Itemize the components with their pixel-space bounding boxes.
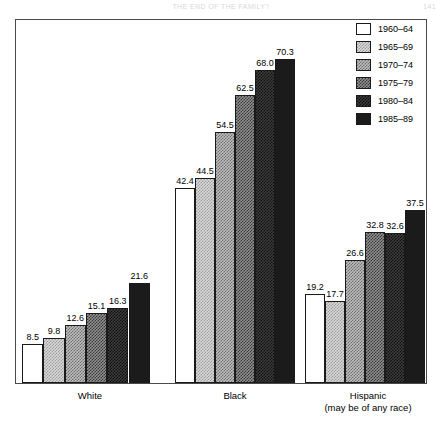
bar — [175, 188, 195, 383]
bar — [129, 283, 150, 383]
legend-item-label: 1970–74 — [378, 60, 413, 70]
page-number: 141 — [423, 0, 436, 14]
category-label-text: Black — [223, 390, 246, 401]
bar-value-label: 70.3 — [270, 47, 300, 57]
legend-item-label: 1965–69 — [378, 42, 413, 52]
chart-legend: 1960–641965–691970–741975–791980–841985–… — [356, 20, 434, 128]
bar — [405, 210, 425, 383]
category-label-subtext: (may be of any race) — [288, 402, 442, 414]
running-head: THE END OF THE FAMILY? 141 — [0, 0, 442, 14]
bar — [86, 313, 107, 383]
legend-item: 1970–74 — [356, 56, 434, 74]
bar — [215, 132, 235, 383]
category-label-text: Hispanic — [350, 390, 386, 401]
legend-item-label: 1975–79 — [378, 78, 413, 88]
bar — [345, 260, 365, 383]
swatch-medium-light-dither — [356, 59, 371, 71]
running-head-title: THE END OF THE FAMILY? — [172, 3, 269, 10]
legend-item-label: 1960–64 — [378, 24, 413, 34]
bar — [65, 325, 86, 383]
bar — [43, 338, 64, 383]
legend-item: 1985–89 — [356, 110, 434, 128]
bar — [107, 308, 128, 383]
legend-item-label: 1985–89 — [378, 114, 413, 124]
bar — [275, 59, 295, 383]
legend-item: 1960–64 — [356, 20, 434, 38]
legend-item: 1975–79 — [356, 74, 434, 92]
bar-value-label: 21.6 — [124, 271, 154, 281]
swatch-medium-dark-dither — [356, 77, 371, 89]
category-label-text: White — [78, 390, 102, 401]
legend-item: 1965–69 — [356, 38, 434, 56]
swatch-dark-dither — [356, 95, 371, 107]
bar — [22, 344, 43, 383]
category-label: Hispanic(may be of any race) — [288, 390, 442, 414]
bar — [325, 301, 345, 383]
legend-item: 1980–84 — [356, 92, 434, 110]
bar — [365, 232, 385, 383]
category-label: White — [10, 390, 170, 402]
swatch-light-dither — [356, 41, 371, 53]
bar — [385, 233, 405, 383]
legend-item-label: 1980–84 — [378, 96, 413, 106]
bar — [195, 178, 215, 383]
bar — [235, 95, 255, 383]
bar — [255, 70, 275, 383]
bar — [305, 294, 325, 383]
bar-value-label: 37.5 — [400, 198, 430, 208]
swatch-black — [356, 113, 371, 125]
swatch-white — [356, 23, 371, 35]
